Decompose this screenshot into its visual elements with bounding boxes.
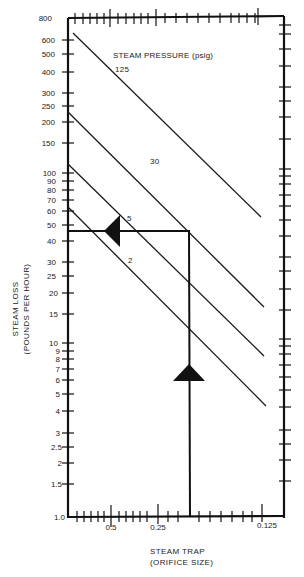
series-label-30: 30 xyxy=(150,157,160,166)
svg-text:3: 3 xyxy=(56,429,61,438)
svg-text:60: 60 xyxy=(47,207,56,216)
svg-text:0.125: 0.125 xyxy=(257,521,278,530)
legend-title: STEAM PRESSURE (psig) xyxy=(113,51,213,60)
svg-text:2.5: 2.5 xyxy=(51,443,63,452)
svg-text:4: 4 xyxy=(56,407,61,416)
svg-text:90: 90 xyxy=(47,177,56,186)
svg-text:20: 20 xyxy=(49,289,58,298)
y-axis-title-line-2: (POUNDS PER HOUR) xyxy=(21,254,32,364)
svg-text:600: 600 xyxy=(42,36,56,45)
svg-text:400: 400 xyxy=(42,68,56,77)
svg-text:7: 7 xyxy=(56,365,61,374)
series-label-5: 5 xyxy=(127,214,132,223)
x-tick-labels: 0.5 0.25 0.125 xyxy=(105,521,277,532)
svg-text:1.0: 1.0 xyxy=(54,513,66,522)
series-line-30 xyxy=(68,112,264,307)
svg-text:800: 800 xyxy=(39,14,53,23)
plot-frame xyxy=(67,16,285,518)
example-reading-path xyxy=(68,230,190,517)
steam-loss-chart: 800 600 500 400 300 250 200 150 100 90 8… xyxy=(0,0,304,577)
arrow-up-icon xyxy=(173,364,205,381)
svg-text:1.5: 1.5 xyxy=(51,480,63,489)
svg-text:70: 70 xyxy=(47,196,56,205)
svg-text:250: 250 xyxy=(42,102,56,111)
x-axis-title: STEAM TRAP (ORIFICE SIZE) xyxy=(150,546,213,568)
svg-text:30: 30 xyxy=(47,258,56,267)
series-label-125: 125 xyxy=(115,65,129,74)
series-line-2 xyxy=(68,207,266,406)
arrow-left-icon xyxy=(104,215,120,247)
pressure-lines xyxy=(68,33,266,406)
svg-text:25: 25 xyxy=(47,272,56,281)
x-axis-title-line-2: (ORIFICE SIZE) xyxy=(150,557,213,568)
svg-text:8: 8 xyxy=(56,355,61,364)
svg-text:0.5: 0.5 xyxy=(105,523,117,532)
y-axis-title-line-1: STEAM LOSS xyxy=(10,254,21,364)
svg-text:6: 6 xyxy=(56,376,61,385)
svg-text:150: 150 xyxy=(42,139,56,148)
x-axis-title-line-1: STEAM TRAP xyxy=(150,546,213,557)
svg-text:15: 15 xyxy=(49,310,58,319)
svg-text:2: 2 xyxy=(58,459,63,468)
y-axis-title: STEAM LOSS (POUNDS PER HOUR) xyxy=(10,254,32,364)
svg-text:40: 40 xyxy=(47,237,56,246)
svg-text:500: 500 xyxy=(42,50,56,59)
series-label-2: 2 xyxy=(128,256,133,265)
svg-text:50: 50 xyxy=(47,221,56,230)
svg-text:200: 200 xyxy=(42,118,56,127)
svg-text:5: 5 xyxy=(56,390,61,399)
series-line-5 xyxy=(68,164,264,356)
svg-text:300: 300 xyxy=(42,89,56,98)
y-tick-labels: 800 600 500 400 300 250 200 150 100 90 8… xyxy=(39,14,66,522)
svg-text:0.25: 0.25 xyxy=(150,523,166,532)
svg-text:80: 80 xyxy=(47,186,56,195)
series-line-125 xyxy=(73,33,261,217)
